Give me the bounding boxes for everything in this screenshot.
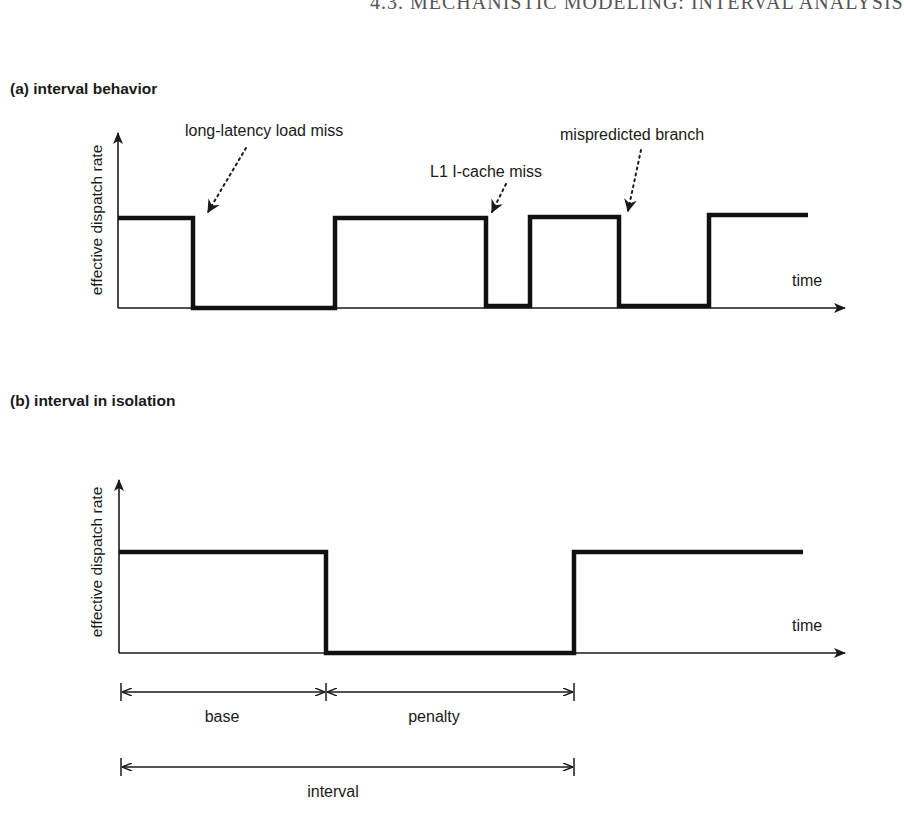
x-axis-label-b: time	[792, 617, 822, 634]
annotation-arrow-load-miss	[208, 148, 246, 212]
dimension-label-base: base	[205, 708, 240, 725]
y-axis-label-b: effective dispatch rate	[88, 487, 105, 638]
dispatch-rate-step-line-b	[119, 552, 803, 653]
annotation-l1-icache-miss: L1 I-cache miss	[430, 163, 542, 180]
annotation-long-latency-load-miss: long-latency load miss	[185, 122, 343, 139]
dispatch-rate-step-line-a	[118, 215, 808, 308]
annotation-arrow-icache-miss	[492, 184, 506, 212]
annotation-arrow-mispredicted-branch	[628, 150, 641, 211]
x-axis-label-a: time	[792, 272, 822, 289]
panel-a-chart: effective dispatch rate time long-latenc…	[88, 122, 845, 308]
dimension-label-penalty: penalty	[408, 708, 460, 725]
dimension-penalty: penalty	[327, 692, 573, 725]
dimension-label-interval: interval	[307, 783, 359, 800]
y-axis-label-a: effective dispatch rate	[88, 145, 105, 296]
dimension-interval: interval	[121, 758, 574, 800]
dimension-base: base	[121, 683, 574, 725]
annotation-mispredicted-branch: mispredicted branch	[560, 126, 704, 143]
panel-b-chart: effective dispatch rate time base penalt…	[88, 480, 845, 800]
